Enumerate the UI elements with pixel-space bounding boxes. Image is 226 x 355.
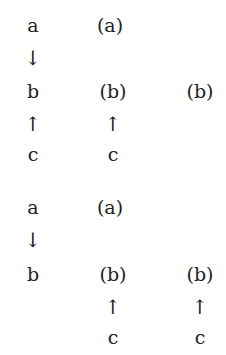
up-arrow-icon: ↑: [25, 113, 42, 135]
node-c: c: [28, 143, 39, 165]
up-arrow-icon: ↑: [105, 296, 122, 318]
node-b-paren: (b): [100, 263, 127, 285]
node-b: b: [27, 263, 39, 285]
node-a: a: [27, 14, 38, 36]
node-c: c: [108, 326, 119, 348]
node-a-paren: (a): [97, 196, 123, 218]
down-arrow-icon: ↓: [25, 47, 42, 69]
node-b-paren: (b): [100, 80, 127, 102]
node-c: c: [108, 143, 119, 165]
up-arrow-icon: ↑: [105, 113, 122, 135]
node-a-paren: (a): [97, 14, 123, 36]
node-b: b: [27, 80, 39, 102]
node-a: a: [27, 196, 38, 218]
node-c: c: [195, 326, 206, 348]
down-arrow-icon: ↓: [25, 229, 42, 251]
up-arrow-icon: ↑: [192, 296, 209, 318]
node-b-paren: (b): [187, 80, 214, 102]
node-b-paren: (b): [187, 263, 214, 285]
